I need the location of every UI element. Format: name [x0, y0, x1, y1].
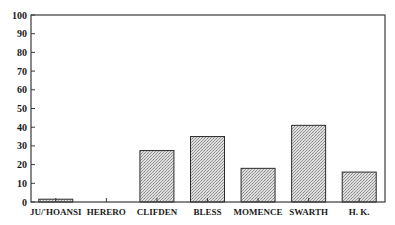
- y-tick-label: 70: [17, 66, 27, 77]
- y-tick-label: 80: [17, 47, 27, 58]
- y-tick-label: 50: [17, 103, 27, 114]
- x-category-label: SWARTH: [289, 207, 328, 217]
- y-tick-label: 90: [17, 28, 27, 39]
- y-tick-label: 0: [22, 197, 27, 208]
- bar-chart: 0102030405060708090100 JU/'HOANSIHEREROC…: [0, 0, 395, 225]
- bars: [39, 125, 376, 202]
- y-tick-label: 60: [17, 84, 27, 95]
- x-category-label: BLESS: [193, 207, 221, 217]
- y-tick-label: 10: [17, 178, 27, 189]
- bar: [140, 151, 174, 202]
- y-tick-label: 20: [17, 159, 27, 170]
- bar: [241, 168, 275, 202]
- x-category-label: HERERO: [87, 207, 126, 217]
- x-category-label: CLIFDEN: [137, 207, 178, 217]
- x-axis-labels: JU/'HOANSIHEREROCLIFDENBLESSMOMENCESWART…: [30, 207, 370, 217]
- y-tick-label: 100: [12, 10, 27, 21]
- x-category-label: MOMENCE: [234, 207, 283, 217]
- y-tick-label: 30: [17, 140, 27, 151]
- y-tick-label: 40: [17, 122, 27, 133]
- x-category-label: JU/'HOANSI: [30, 207, 82, 217]
- bar: [342, 172, 376, 202]
- bar: [191, 137, 225, 202]
- x-category-label: H. K.: [349, 207, 370, 217]
- bar: [292, 125, 326, 202]
